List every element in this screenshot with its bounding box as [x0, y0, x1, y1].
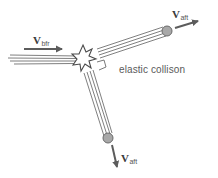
upper-velocity-arrow: [175, 21, 198, 28]
incoming-vector-subscript: bfr: [41, 40, 49, 47]
right-angle-marker: [97, 60, 106, 70]
incoming-velocity-label: Vbfr: [33, 35, 50, 47]
collision-starburst-icon: [72, 45, 96, 71]
lower-vector-symbol: V: [121, 152, 129, 164]
upper-vector-symbol: V: [172, 8, 180, 20]
lower-velocity-arrow: [112, 145, 117, 167]
lower-motion-streaks: [84, 70, 112, 136]
lower-vector-subscript: aft: [129, 158, 137, 165]
diagram-caption: elastic collison: [119, 65, 185, 75]
incoming-motion-streaks: [8, 55, 78, 64]
upper-ball: [162, 26, 172, 36]
upper-vector-subscript: aft: [180, 14, 188, 21]
incoming-vector-symbol: V: [33, 34, 41, 46]
collision-diagram: [0, 0, 218, 178]
lower-ball: [103, 133, 113, 143]
upper-motion-streaks: [97, 27, 166, 58]
lower-velocity-label: Vaft: [121, 153, 137, 165]
upper-velocity-label: Vaft: [172, 9, 188, 21]
